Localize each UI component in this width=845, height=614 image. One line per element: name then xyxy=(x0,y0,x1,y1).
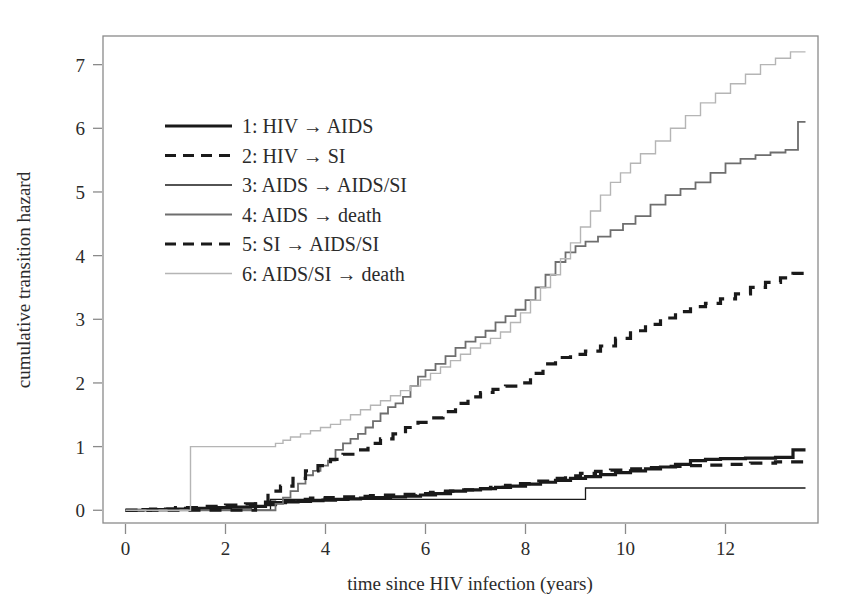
y-tick-label: 3 xyxy=(76,309,86,330)
y-tick-label: 6 xyxy=(76,118,86,139)
x-tick-label: 6 xyxy=(421,538,431,559)
y-tick-label: 7 xyxy=(76,55,86,76)
x-tick-label: 12 xyxy=(716,538,735,559)
x-axis-label: time since HIV infection (years) xyxy=(347,573,593,595)
legend-label-5: 5: SI → AIDS/SI xyxy=(242,233,379,255)
legend-label-1: 1: HIV → AIDS xyxy=(242,115,373,137)
chart-background xyxy=(0,0,845,614)
x-tick-label: 10 xyxy=(616,538,635,559)
y-tick-label: 4 xyxy=(76,246,86,267)
y-tick-label: 0 xyxy=(76,500,86,521)
legend-label-2: 2: HIV → SI xyxy=(242,145,346,167)
legend-label-3: 3: AIDS → AIDS/SI xyxy=(242,174,407,196)
y-tick-label: 1 xyxy=(76,437,86,458)
cumulative-hazard-chart: 024681012 01234567 1: HIV → AIDS2: HIV →… xyxy=(0,0,845,614)
y-tick-label: 2 xyxy=(76,373,86,394)
x-tick-label: 8 xyxy=(521,538,531,559)
legend-label-4: 4: AIDS → death xyxy=(242,204,381,226)
chart-page: 024681012 01234567 1: HIV → AIDS2: HIV →… xyxy=(0,0,845,614)
x-tick-label: 2 xyxy=(221,538,231,559)
x-tick-label: 4 xyxy=(321,538,331,559)
x-tick-label: 0 xyxy=(121,538,131,559)
legend-label-6: 6: AIDS/SI → death xyxy=(242,263,405,285)
y-tick-label: 5 xyxy=(76,182,86,203)
y-axis-label: cumulative transition hazard xyxy=(13,171,34,388)
